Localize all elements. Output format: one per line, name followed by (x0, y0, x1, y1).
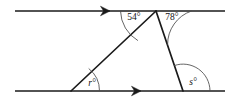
angle-label-r: r° (88, 78, 96, 88)
geometry-diagram: 54° 78° r° s° (0, 0, 232, 109)
triangle-left-side (71, 11, 156, 91)
triangle-right-side (156, 11, 183, 91)
angle-label-78: 78° (165, 12, 179, 22)
geometry-figure-container: 54° 78° r° s° (0, 0, 232, 109)
angle-label-54: 54° (127, 12, 141, 22)
angle-label-s: s° (189, 77, 197, 87)
